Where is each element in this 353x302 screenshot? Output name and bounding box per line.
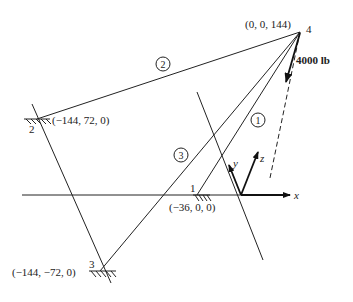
node-3-coords: (−144, −72, 0): [12, 266, 76, 279]
z-axis: [241, 152, 258, 195]
member-label-2: 2: [156, 57, 170, 71]
truss-diagram: 2 1 3 4 (0, 0, 144) 2 (−144, 72, 0) 1 (−…: [0, 0, 353, 302]
member-1: [197, 32, 300, 195]
node-3-label: 3: [89, 258, 95, 270]
node-1-label: 1: [190, 182, 196, 194]
load-label: 4000 lb: [296, 54, 330, 66]
svg-text:1: 1: [256, 115, 261, 126]
member-label-1: 1: [251, 113, 265, 127]
node-4-label: 4: [306, 23, 312, 35]
member-2: [37, 32, 300, 119]
node-4-coords: (0, 0, 144): [245, 18, 291, 31]
x-axis-label: x: [293, 189, 299, 201]
z-axis-label: z: [259, 152, 265, 164]
member-label-3: 3: [174, 148, 188, 162]
svg-text:2: 2: [161, 59, 166, 70]
node-1-coords: (−36, 0, 0): [169, 201, 216, 214]
node-2-label: 2: [29, 123, 35, 135]
member-3: [100, 32, 300, 271]
ground-line-2-3: [32, 104, 111, 283]
y-axis-label: y: [232, 157, 238, 169]
svg-text:3: 3: [179, 150, 184, 161]
node-2-coords: (−144, 72, 0): [52, 114, 110, 127]
support-3-icon: [89, 271, 116, 277]
y-axis: [229, 165, 241, 195]
